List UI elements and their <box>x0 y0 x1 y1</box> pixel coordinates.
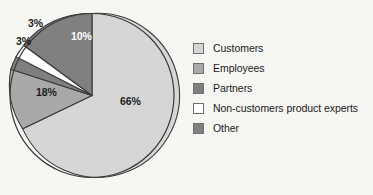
legend-item-customers[interactable]: Customers <box>193 38 371 58</box>
legend-label-customers: Customers <box>213 42 263 54</box>
pie-label-employees: 18% <box>36 87 57 98</box>
legend-item-employees[interactable]: Employees <box>193 58 371 78</box>
pie-label-other: 10% <box>71 31 92 42</box>
pie-label-non-customers: 3% <box>28 18 43 29</box>
legend-swatch-partners <box>193 83 204 94</box>
legend-label-employees: Employees <box>213 62 265 74</box>
pie-label-partners: 3% <box>16 36 31 47</box>
legend-swatch-other <box>193 123 204 134</box>
legend-swatch-non-customers <box>193 103 204 114</box>
legend-item-partners[interactable]: Partners <box>193 78 371 98</box>
legend-label-other: Other <box>213 122 239 134</box>
pie-label-customers: 66% <box>120 96 141 107</box>
legend-swatch-customers <box>193 43 204 54</box>
chart-legend: Customers Employees Partners Non-custome… <box>193 38 371 138</box>
pie-chart-svg <box>0 0 190 195</box>
legend-item-non-customers[interactable]: Non-customers product experts <box>193 98 371 118</box>
legend-item-other[interactable]: Other <box>193 118 371 138</box>
pie-chart: 66% 18% 3% 3% 10% <box>0 0 190 195</box>
pie-chart-figure: 66% 18% 3% 3% 10% Customers Employees Pa… <box>0 0 373 195</box>
legend-swatch-employees <box>193 63 204 74</box>
legend-label-partners: Partners <box>213 82 252 94</box>
pie-slices <box>9 13 179 177</box>
legend-label-non-customers: Non-customers product experts <box>213 102 358 114</box>
